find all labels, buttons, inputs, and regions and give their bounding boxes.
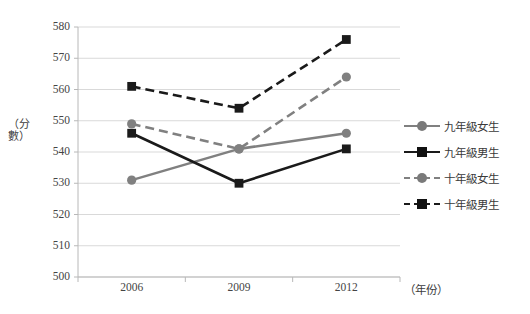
data-point-marker	[235, 104, 244, 113]
legend-key-solid-black-square	[404, 145, 440, 159]
data-point-marker	[342, 129, 351, 138]
data-point-marker	[342, 144, 351, 153]
legend-key-solid-gray-circle	[404, 119, 440, 133]
legend-label-3: 十年級男生	[444, 196, 499, 212]
data-point-marker	[127, 176, 136, 185]
legend-label-2: 十年級女生	[444, 170, 499, 186]
legend-label-0: 九年級女生	[444, 118, 499, 134]
legend-key-dashed-gray-circle	[404, 171, 440, 185]
data-point-marker	[234, 144, 243, 153]
data-point-marker	[127, 129, 136, 138]
data-point-marker	[127, 119, 136, 128]
series-line-1	[132, 133, 347, 183]
legend-item-0[interactable]: 九年級女生	[404, 115, 530, 136]
legend-key-dashed-black-square	[404, 197, 440, 211]
data-point-marker	[127, 82, 136, 91]
legend-item-1[interactable]: 九年級男生	[404, 141, 530, 162]
series-line-0	[132, 133, 347, 180]
chart-legend: 九年級女生 九年級男生 十年級女生 十年級男生	[404, 115, 530, 219]
legend-item-3[interactable]: 十年級男生	[404, 193, 530, 214]
data-point-marker	[342, 72, 351, 81]
line-chart: （分數） （年份） 500510520530540550560570580 20…	[0, 0, 530, 314]
legend-label-1: 九年級男生	[444, 144, 499, 160]
data-point-marker	[235, 179, 244, 188]
legend-item-2[interactable]: 十年級女生	[404, 167, 530, 188]
data-point-marker	[342, 35, 351, 44]
